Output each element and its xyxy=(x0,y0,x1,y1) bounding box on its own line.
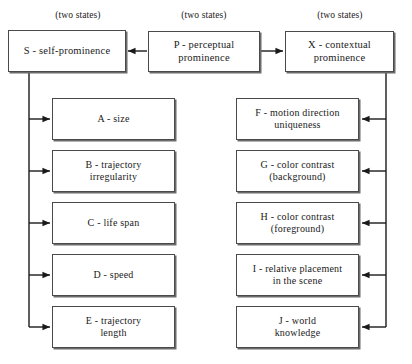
node-size[interactable]: A - size xyxy=(52,98,175,140)
node-color-contrast-foreground[interactable]: H - color contrast (foreground) xyxy=(236,202,359,244)
node-relative-placement[interactable]: I - relative placement in the scene xyxy=(236,254,359,296)
node-life-span-label: C - life span xyxy=(88,217,140,229)
caption-two-states-self-prominence: (two states) xyxy=(28,10,128,20)
node-size-label: A - size xyxy=(97,113,129,125)
node-color-contrast-foreground-label: H - color contrast (foreground) xyxy=(261,211,335,235)
node-trajectory-length-label: E - trajectory length xyxy=(86,315,142,339)
node-perceptual-prominence[interactable]: P - perceptual prominence xyxy=(148,31,260,72)
node-color-contrast-background-label: G - color contrast (background) xyxy=(261,159,335,183)
node-motion-direction-uniqueness-label: F - motion direction uniqueness xyxy=(255,107,339,131)
node-relative-placement-label: I - relative placement in the scene xyxy=(253,263,343,287)
node-contextual-prominence-label: X - contextual prominence xyxy=(308,39,371,64)
caption-two-states-perceptual-prominence: (two states) xyxy=(154,10,254,20)
node-trajectory-length[interactable]: E - trajectory length xyxy=(52,306,175,348)
node-speed[interactable]: D - speed xyxy=(52,254,175,296)
node-self-prominence-label: S - self-prominence xyxy=(24,45,111,57)
node-contextual-prominence[interactable]: X - contextual prominence xyxy=(285,31,394,72)
node-speed-label: D - speed xyxy=(93,269,133,281)
node-world-knowledge-label: J - world knowledge xyxy=(275,315,321,339)
prominence-hierarchy-diagram: (two states) (two states) (two states) S… xyxy=(0,0,412,364)
node-world-knowledge[interactable]: J - world knowledge xyxy=(236,306,359,348)
node-color-contrast-background[interactable]: G - color contrast (background) xyxy=(236,150,359,192)
node-life-span[interactable]: C - life span xyxy=(52,202,175,244)
caption-two-states-contextual-prominence: (two states) xyxy=(290,10,390,20)
node-trajectory-irregularity-label: B - trajectory irregularity xyxy=(85,159,141,183)
node-trajectory-irregularity[interactable]: B - trajectory irregularity xyxy=(52,150,175,192)
node-self-prominence[interactable]: S - self-prominence xyxy=(8,30,126,72)
node-motion-direction-uniqueness[interactable]: F - motion direction uniqueness xyxy=(236,98,359,140)
node-perceptual-prominence-label: P - perceptual prominence xyxy=(174,39,235,64)
